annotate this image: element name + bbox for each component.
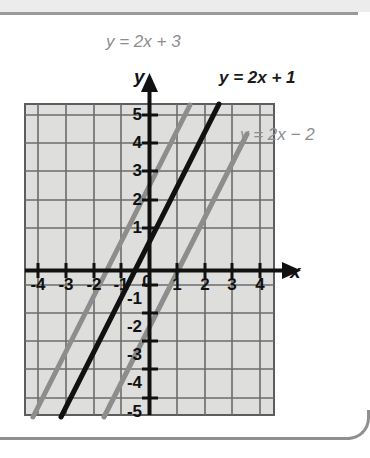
y-tick-label--2: -2: [113, 317, 142, 337]
equation-label-y-2x-minus-2: y = 2x − 2: [240, 125, 315, 145]
figure-page: y = 2x + 3 y = 2x + 1 y = 2x − 2 y x 0 -…: [0, 0, 370, 458]
x-tick-label--2: -2: [80, 275, 108, 295]
equation-label-y-2x-plus-3: y = 2x + 3: [106, 32, 181, 52]
coordinate-plane-svg: [0, 0, 370, 458]
y-tick-label-5: 5: [120, 105, 142, 125]
x-tick-label-4: 4: [246, 275, 274, 295]
y-tick-label--1: -1: [113, 289, 142, 309]
y-tick-label-1: 1: [120, 218, 142, 238]
y-tick-label-2: 2: [120, 190, 142, 210]
x-tick-label-2: 2: [191, 275, 219, 295]
y-axis-name: y: [134, 66, 145, 88]
y-tick-label-4: 4: [120, 133, 142, 153]
x-tick-label--4: -4: [24, 275, 52, 295]
x-tick-label--3: -3: [52, 275, 80, 295]
x-tick-label-3: 3: [218, 275, 246, 295]
graph-canvas: [0, 0, 370, 458]
y-tick-label--5: -5: [113, 402, 142, 422]
y-tick-label--4: -4: [113, 373, 142, 393]
y-tick-label-3: 3: [120, 161, 142, 181]
equation-label-y-2x-plus-1: y = 2x + 1: [219, 68, 296, 88]
x-axis-name: x: [290, 261, 301, 283]
y-tick-label--3: -3: [113, 345, 142, 365]
x-tick-label-1: 1: [163, 275, 191, 295]
